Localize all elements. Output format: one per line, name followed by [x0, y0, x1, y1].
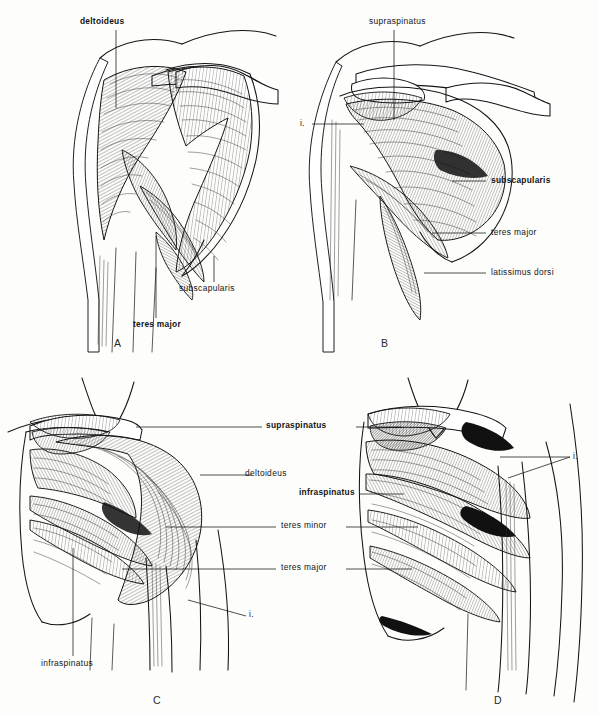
- label-subscapularis-b: subscapularis: [491, 176, 551, 184]
- label-insertion-b: i.: [300, 119, 305, 127]
- panel-letter-a: A: [114, 337, 121, 349]
- panel-letter-b: B: [381, 337, 388, 349]
- label-infraspinatus-c: infraspinatus: [41, 659, 93, 667]
- label-insertion-d: i.: [573, 452, 578, 460]
- label-subscapularis-a: subscapularis: [179, 284, 235, 292]
- label-teres-major-b: teres major: [491, 228, 537, 236]
- anatomy-plate: .ol{fill:none;stroke:#141414;stroke-widt…: [0, 0, 598, 717]
- label-latissimus-dorsi-b: latissimus dorsi: [491, 268, 554, 276]
- panel-letter-c: C: [153, 694, 161, 706]
- label-teres-major-a: teres major: [133, 320, 181, 328]
- label-supraspinatus-c: supraspinatus: [266, 421, 327, 429]
- label-deltoideus-a: deltoideus: [80, 17, 124, 25]
- label-teres-minor-c: teres minor: [281, 521, 327, 529]
- label-teres-major-c: teres major: [281, 563, 327, 571]
- label-insertion-c: i.: [249, 610, 254, 618]
- label-supraspinatus-b: supraspinatus: [369, 17, 426, 25]
- label-deltoideus-c: deltoideus: [245, 469, 287, 477]
- label-infraspinatus-d: infraspinatus: [299, 488, 355, 496]
- panel-letter-d: D: [494, 694, 502, 706]
